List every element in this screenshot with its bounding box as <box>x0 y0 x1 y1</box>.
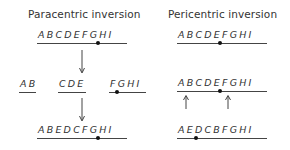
pericentric-breakpoint-chromosome <box>177 91 267 92</box>
pericentric-title: Pericentric inversion <box>168 8 277 20</box>
paracentric-result-chromosome <box>37 138 127 139</box>
fragment-cde-chromosome <box>58 92 86 93</box>
pericentric-breakpoint-sequence: ABCDEFGHI <box>178 77 254 88</box>
centromere-dot <box>96 41 100 45</box>
fragment-ab: AB <box>20 78 37 89</box>
up-arrow-icon <box>182 95 190 109</box>
fragment-cde: CDE <box>59 78 86 89</box>
pericentric-result-chromosome <box>177 138 267 139</box>
paracentric-result-sequence: ABEDCFGHI <box>38 124 114 135</box>
paracentric-original-chromosome <box>37 43 127 44</box>
pericentric-original-sequence: ABCDEFGHI <box>178 29 254 40</box>
paracentric-original-sequence: ABCDEFGHI <box>38 29 114 40</box>
centromere-dot <box>96 136 100 140</box>
centromere-dot <box>194 136 198 140</box>
centromere-dot <box>115 90 119 94</box>
fragment-fghi: FGHI <box>110 78 142 89</box>
pericentric-original-chromosome <box>177 43 267 44</box>
pericentric-result-sequence: AEDCBFGHI <box>178 124 254 135</box>
up-arrow-icon <box>224 95 232 109</box>
fragment-ab-chromosome <box>19 92 36 93</box>
centromere-dot <box>218 41 222 45</box>
down-arrow-icon <box>78 98 86 122</box>
centromere-dot <box>218 89 222 93</box>
down-arrow-icon <box>78 50 86 74</box>
paracentric-title: Paracentric inversion <box>28 8 141 20</box>
